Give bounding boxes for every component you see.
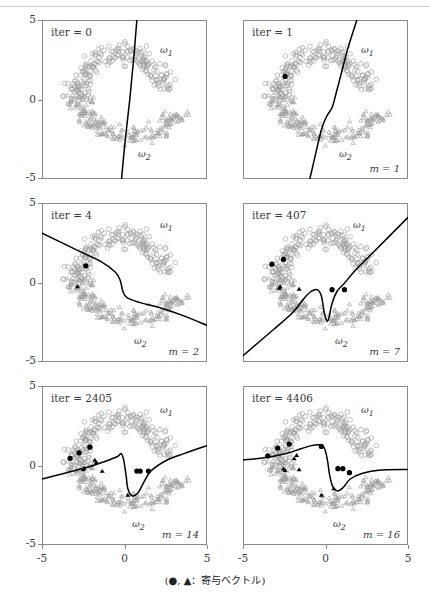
class-label-omega2: ω2 bbox=[134, 335, 147, 349]
x-axis-tick-mark bbox=[243, 545, 244, 549]
support-vector-count-label: m = 1 bbox=[369, 163, 400, 174]
panel-iter-1: iter = 1m = 1ω1ω2 bbox=[243, 20, 408, 179]
class-label-omega1: ω1 bbox=[160, 404, 173, 418]
y-axis-tick-label: 5 bbox=[12, 379, 36, 391]
class-label-omega2: ω2 bbox=[339, 148, 352, 162]
caption-text: (●, ▲：寄与ベクトル) bbox=[165, 575, 266, 586]
class-label-omega1: ω1 bbox=[353, 219, 366, 233]
support-vector-count-label: m = 16 bbox=[363, 529, 400, 540]
panel-iter-4: iter = 4m = 2ω1ω2 bbox=[42, 203, 207, 362]
panel-iter-2405: iter = 2405m = 14ω1ω2 bbox=[42, 386, 207, 545]
y-axis-tick-mark bbox=[38, 100, 42, 101]
plot-area bbox=[243, 20, 408, 179]
scatter-canvas bbox=[42, 203, 207, 362]
x-axis-tick-label: 0 bbox=[112, 552, 138, 564]
iteration-label: iter = 4406 bbox=[252, 392, 313, 404]
plot-area bbox=[243, 386, 408, 545]
iteration-label: iter = 2405 bbox=[51, 392, 112, 404]
y-axis-tick-label: -5 bbox=[12, 354, 36, 366]
y-axis-tick-mark bbox=[38, 20, 42, 21]
support-vector-count-label: m = 2 bbox=[168, 346, 199, 357]
plot-area bbox=[42, 20, 207, 179]
panel-iter-407: iter = 407m = 7ω1ω2 bbox=[243, 203, 408, 362]
scatter-canvas bbox=[243, 203, 408, 362]
x-axis-tick-mark bbox=[408, 545, 409, 549]
x-axis-tick-label: -5 bbox=[230, 552, 256, 564]
y-axis-tick-label: -5 bbox=[12, 171, 36, 183]
figure-root: iter = 0ω1ω2iter = 1m = 1ω1ω2iter = 4m =… bbox=[0, 0, 430, 607]
class-label-omega2: ω2 bbox=[132, 518, 145, 532]
panel-iter-4406: iter = 4406m = 16ω1ω2 bbox=[243, 386, 408, 545]
x-axis-tick-mark bbox=[42, 545, 43, 549]
y-axis-tick-mark bbox=[38, 178, 42, 179]
x-axis-tick-label: 5 bbox=[395, 552, 421, 564]
y-axis-tick-mark bbox=[38, 361, 42, 362]
plot-area bbox=[243, 203, 408, 362]
class-label-omega1: ω1 bbox=[160, 44, 173, 58]
x-axis-tick-mark bbox=[207, 545, 208, 549]
x-axis-tick-label: 0 bbox=[313, 552, 339, 564]
support-vector-count-label: m = 14 bbox=[162, 529, 199, 540]
iteration-label: iter = 4 bbox=[51, 209, 92, 221]
y-axis-tick-mark bbox=[38, 466, 42, 467]
y-axis-tick-label: -5 bbox=[12, 537, 36, 549]
y-axis-tick-label: 5 bbox=[12, 13, 36, 25]
x-axis-tick-label: 5 bbox=[194, 552, 220, 564]
y-axis-tick-mark bbox=[38, 386, 42, 387]
page-top-rule bbox=[0, 6, 430, 7]
class-label-omega1: ω1 bbox=[160, 219, 173, 233]
figure-caption: (●, ▲：寄与ベクトル) bbox=[0, 572, 430, 587]
y-axis-tick-label: 0 bbox=[12, 459, 36, 471]
scatter-canvas bbox=[243, 386, 408, 545]
x-axis-tick-mark bbox=[125, 545, 126, 549]
plot-area bbox=[42, 386, 207, 545]
class-label-omega1: ω1 bbox=[361, 404, 374, 418]
iteration-label: iter = 0 bbox=[51, 26, 92, 38]
scatter-canvas bbox=[243, 20, 408, 179]
y-axis-tick-mark bbox=[38, 283, 42, 284]
y-axis-tick-label: 0 bbox=[12, 276, 36, 288]
y-axis-tick-mark bbox=[38, 203, 42, 204]
class-label-omega1: ω1 bbox=[361, 44, 374, 58]
y-axis-tick-label: 0 bbox=[12, 93, 36, 105]
x-axis-tick-label: -5 bbox=[29, 552, 55, 564]
y-axis-tick-label: 5 bbox=[12, 196, 36, 208]
x-axis-tick-mark bbox=[326, 545, 327, 549]
scatter-canvas bbox=[42, 20, 207, 179]
iteration-label: iter = 1 bbox=[252, 26, 293, 38]
panel-iter-0: iter = 0ω1ω2 bbox=[42, 20, 207, 179]
scatter-canvas bbox=[42, 386, 207, 545]
class-label-omega2: ω2 bbox=[138, 148, 151, 162]
support-vector-count-label: m = 7 bbox=[369, 346, 400, 357]
class-label-omega2: ω2 bbox=[333, 518, 346, 532]
iteration-label: iter = 407 bbox=[252, 209, 306, 221]
plot-area bbox=[42, 203, 207, 362]
class-label-omega2: ω2 bbox=[335, 335, 348, 349]
